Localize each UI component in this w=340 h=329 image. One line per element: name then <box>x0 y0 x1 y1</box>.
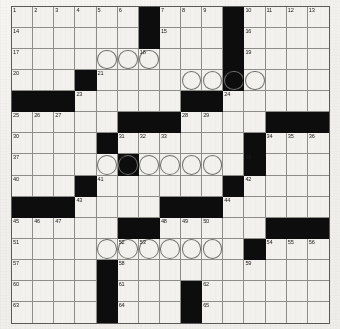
grid-cell[interactable]: 44 <box>223 197 244 218</box>
grid-cell[interactable] <box>308 28 329 49</box>
grid-cell[interactable]: 51 <box>12 239 33 260</box>
grid-cell[interactable] <box>118 70 139 91</box>
grid-cell[interactable] <box>287 302 308 323</box>
grid-cell[interactable] <box>223 154 244 175</box>
grid-cell[interactable] <box>54 154 75 175</box>
grid-cell[interactable] <box>308 176 329 197</box>
grid-cell[interactable]: 45 <box>12 218 33 239</box>
grid-cell[interactable]: 9 <box>202 7 223 28</box>
grid-cell[interactable] <box>54 239 75 260</box>
grid-cell[interactable]: 53 <box>139 239 160 260</box>
grid-cell[interactable] <box>202 154 223 175</box>
grid-cell[interactable] <box>266 28 287 49</box>
grid-cell[interactable] <box>181 133 202 154</box>
grid-cell[interactable] <box>308 197 329 218</box>
grid-cell[interactable] <box>244 112 265 133</box>
grid-cell[interactable]: 65 <box>202 302 223 323</box>
grid-cell[interactable] <box>223 260 244 281</box>
grid-cell[interactable]: 37 <box>12 154 33 175</box>
grid-cell[interactable] <box>118 197 139 218</box>
grid-cell[interactable] <box>181 154 202 175</box>
grid-cell[interactable] <box>33 281 54 302</box>
grid-cell[interactable]: 18 <box>139 49 160 70</box>
grid-cell[interactable] <box>181 260 202 281</box>
grid-cell[interactable] <box>118 91 139 112</box>
grid-cell[interactable]: 20 <box>12 70 33 91</box>
grid-cell[interactable] <box>33 70 54 91</box>
grid-cell[interactable] <box>308 302 329 323</box>
grid-cell[interactable]: 15 <box>160 28 181 49</box>
grid-cell[interactable] <box>75 302 96 323</box>
grid-cell[interactable] <box>54 281 75 302</box>
grid-cell[interactable] <box>287 70 308 91</box>
grid-cell[interactable] <box>54 260 75 281</box>
grid-cell[interactable] <box>266 260 287 281</box>
grid-cell[interactable]: 27 <box>54 112 75 133</box>
grid-cell[interactable] <box>287 28 308 49</box>
grid-cell[interactable]: 59 <box>244 260 265 281</box>
grid-cell[interactable] <box>75 154 96 175</box>
grid-cell[interactable]: 12 <box>287 7 308 28</box>
grid-cell[interactable] <box>181 49 202 70</box>
grid-cell[interactable]: 28 <box>181 112 202 133</box>
grid-cell[interactable] <box>287 260 308 281</box>
grid-cell[interactable] <box>160 49 181 70</box>
grid-cell[interactable] <box>160 70 181 91</box>
grid-cell[interactable]: 43 <box>75 197 96 218</box>
grid-cell[interactable] <box>139 302 160 323</box>
grid-cell[interactable] <box>54 133 75 154</box>
grid-cell[interactable]: 49 <box>181 218 202 239</box>
grid-cell[interactable] <box>54 70 75 91</box>
grid-cell[interactable] <box>33 239 54 260</box>
grid-cell[interactable] <box>223 281 244 302</box>
grid-cell[interactable] <box>33 154 54 175</box>
grid-cell[interactable]: 55 <box>287 239 308 260</box>
grid-cell[interactable] <box>139 176 160 197</box>
grid-cell[interactable]: 35 <box>287 133 308 154</box>
grid-cell[interactable] <box>181 70 202 91</box>
grid-cell[interactable] <box>75 218 96 239</box>
grid-cell[interactable] <box>97 154 118 175</box>
grid-cell[interactable] <box>266 70 287 91</box>
grid-cell[interactable] <box>223 133 244 154</box>
grid-cell[interactable]: 6 <box>118 7 139 28</box>
grid-cell[interactable] <box>202 133 223 154</box>
grid-cell[interactable] <box>244 91 265 112</box>
grid-cell[interactable] <box>308 260 329 281</box>
grid-cell[interactable] <box>160 176 181 197</box>
grid-cell[interactable]: 16 <box>244 28 265 49</box>
grid-cell[interactable] <box>75 28 96 49</box>
grid-cell[interactable]: 14 <box>12 28 33 49</box>
grid-cell[interactable]: 64 <box>118 302 139 323</box>
grid-cell[interactable]: 21 <box>97 70 118 91</box>
grid-cell[interactable] <box>202 239 223 260</box>
grid-cell[interactable]: 47 <box>54 218 75 239</box>
grid-cell[interactable] <box>97 112 118 133</box>
grid-cell[interactable] <box>244 70 265 91</box>
grid-cell[interactable] <box>308 91 329 112</box>
grid-cell[interactable] <box>202 260 223 281</box>
grid-cell[interactable] <box>139 154 160 175</box>
grid-cell[interactable] <box>308 49 329 70</box>
grid-cell[interactable] <box>75 239 96 260</box>
grid-cell[interactable]: 24 <box>223 91 244 112</box>
grid-cell[interactable] <box>266 154 287 175</box>
grid-cell[interactable]: 1 <box>12 7 33 28</box>
grid-cell[interactable]: 26 <box>33 112 54 133</box>
grid-cell[interactable] <box>33 260 54 281</box>
grid-cell[interactable] <box>75 112 96 133</box>
grid-cell[interactable] <box>160 302 181 323</box>
grid-cell[interactable] <box>97 91 118 112</box>
grid-cell[interactable] <box>266 281 287 302</box>
grid-cell[interactable] <box>308 281 329 302</box>
grid-cell[interactable] <box>287 91 308 112</box>
grid-cell[interactable] <box>266 49 287 70</box>
grid-cell[interactable]: 8 <box>181 7 202 28</box>
grid-cell[interactable]: 11 <box>266 7 287 28</box>
grid-cell[interactable] <box>202 176 223 197</box>
grid-cell[interactable]: 60 <box>12 281 33 302</box>
grid-cell[interactable] <box>181 239 202 260</box>
grid-cell[interactable]: 52 <box>118 239 139 260</box>
grid-cell[interactable] <box>75 133 96 154</box>
grid-cell[interactable] <box>308 154 329 175</box>
